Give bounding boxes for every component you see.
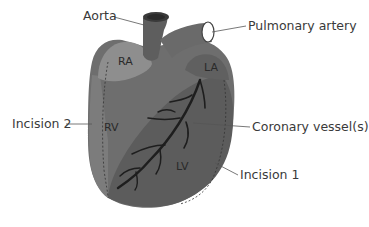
incision-1-label: Incision 1 bbox=[240, 169, 299, 182]
pulmonary-artery-leader bbox=[212, 26, 246, 32]
lv-label: LV bbox=[176, 161, 188, 172]
la-label: LA bbox=[204, 62, 218, 73]
pulmonary-artery-label: Pulmonary artery bbox=[248, 20, 357, 33]
incision-2-label: Incision 2 bbox=[12, 118, 71, 131]
coronary-vessels-label: Coronary vessel(s) bbox=[252, 121, 369, 134]
aorta-label: Aorta bbox=[83, 10, 117, 23]
rv-label: RV bbox=[104, 122, 119, 133]
ra-label: RA bbox=[118, 56, 133, 67]
aorta-leader bbox=[114, 17, 144, 25]
